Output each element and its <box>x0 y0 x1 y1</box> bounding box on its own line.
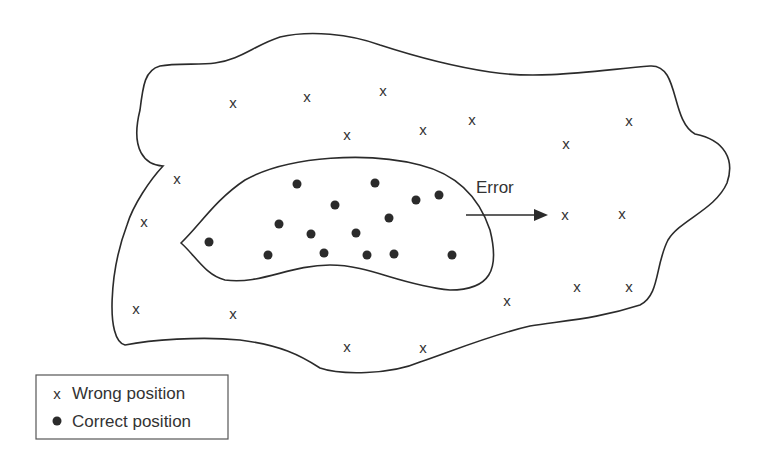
wrong-position-x-icon: x <box>343 338 351 355</box>
correct-position-dot-icon <box>363 251 372 260</box>
error-arrow <box>466 209 548 221</box>
correct-position-dot-icon <box>390 250 399 259</box>
correct-position-dots <box>205 179 457 260</box>
wrong-position-x-icon: x <box>229 305 237 322</box>
correct-position-dot-icon <box>275 220 284 229</box>
wrong-position-marks: xxxxxxxxxxxxxxxxxxx <box>132 82 633 356</box>
wrong-position-x-icon: x <box>379 82 387 99</box>
wrong-position-x-icon: x <box>573 278 581 295</box>
wrong-position-x-icon: x <box>419 339 427 356</box>
wrong-position-x-icon: x <box>132 300 140 317</box>
error-region-diagram: Error xxxxxxxxxxxxxxxxxxx x Wrong positi… <box>0 0 767 462</box>
correct-position-dot-icon <box>352 229 361 238</box>
wrong-position-x-icon: x <box>618 205 626 222</box>
legend-dot-icon <box>53 417 62 426</box>
legend-x-icon: x <box>53 385 61 402</box>
wrong-position-x-icon: x <box>625 278 633 295</box>
wrong-position-x-icon: x <box>625 112 633 129</box>
legend: x Wrong position Correct position <box>36 375 228 439</box>
correct-position-dot-icon <box>320 249 329 258</box>
wrong-position-x-icon: x <box>503 292 511 309</box>
error-label: Error <box>476 178 514 197</box>
wrong-position-x-icon: x <box>468 111 476 128</box>
correct-position-dot-icon <box>264 251 273 260</box>
wrong-position-x-icon: x <box>140 213 148 230</box>
correct-position-dot-icon <box>448 251 457 260</box>
wrong-position-x-icon: x <box>343 126 351 143</box>
correct-position-dot-icon <box>331 201 340 210</box>
wrong-position-x-icon: x <box>173 170 181 187</box>
wrong-position-x-icon: x <box>561 206 569 223</box>
correct-position-dot-icon <box>205 238 214 247</box>
wrong-position-x-icon: x <box>419 121 427 138</box>
correct-position-dot-icon <box>371 179 380 188</box>
legend-correct-label: Correct position <box>72 412 191 431</box>
inner-boundary <box>181 157 494 290</box>
correct-position-dot-icon <box>435 191 444 200</box>
correct-position-dot-icon <box>385 214 394 223</box>
correct-position-dot-icon <box>293 180 302 189</box>
wrong-position-x-icon: x <box>303 88 311 105</box>
wrong-position-x-icon: x <box>229 94 237 111</box>
wrong-position-x-icon: x <box>562 135 570 152</box>
outer-boundary <box>112 34 730 373</box>
correct-position-dot-icon <box>412 196 421 205</box>
correct-position-dot-icon <box>307 230 316 239</box>
legend-wrong-label: Wrong position <box>72 384 185 403</box>
